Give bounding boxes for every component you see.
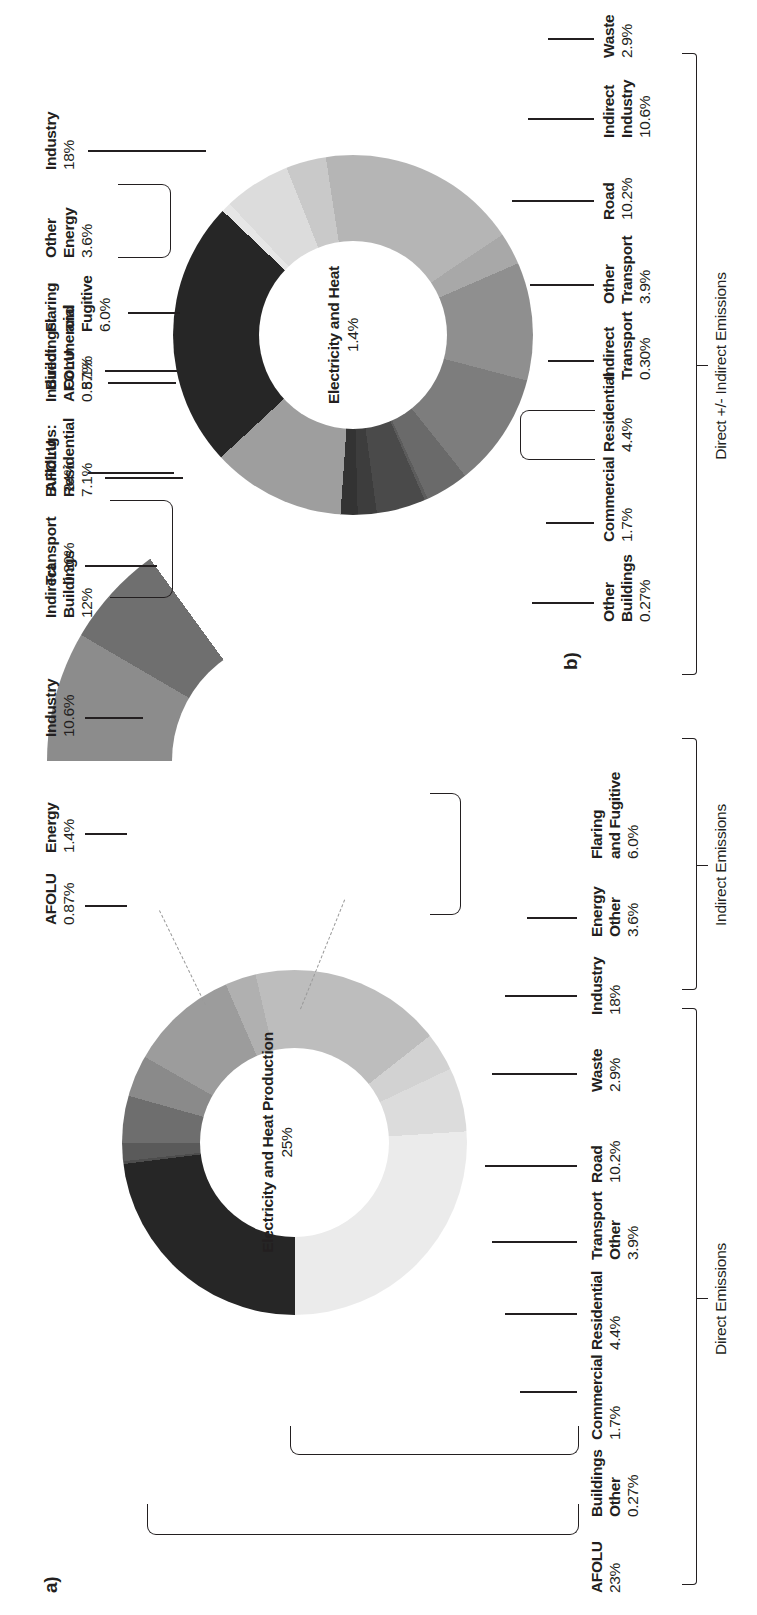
axis-tick-indirect (696, 865, 708, 866)
label-b-waste: Waste 2.9% (600, 0, 636, 58)
label-b-indirect-buildings: Indirect Buildings 12% (42, 508, 96, 618)
leader-direct-transport-other (492, 1241, 577, 1243)
leader-direct-commercial (520, 1391, 577, 1393)
direct-emissions-donut: Electricity and Heat Production 25% (122, 970, 467, 1315)
leader-b-waste (548, 38, 594, 40)
center-title: Electricity and Heat Production (259, 1032, 276, 1253)
center-title: Electricity and Heat (325, 266, 342, 404)
panel-b: b) Electricity and Heat 1.4% Indirect Bu… (0, 0, 757, 710)
leader-b-indirect-industry (528, 118, 594, 120)
leader-indirect-industry (85, 717, 143, 719)
axis-bracket-direct (682, 1008, 697, 1585)
label-direct-flaring-fugitive: Flaring and Fugitive 6.0% (588, 719, 642, 859)
label-indirect-energy: Energy 1.4% (42, 757, 78, 853)
axis-bracket-indirect (682, 738, 697, 990)
leader-b-afolu (88, 472, 174, 474)
leader-direct-residential (505, 1313, 577, 1315)
leader-direct-waste (492, 1073, 577, 1075)
axis-tick-direct (696, 1298, 708, 1299)
center-pct: 25% (278, 1010, 296, 1275)
label-direct-road: Road 10.2% (588, 1087, 624, 1183)
label-b-other-energy: Other Energy 3.6% (42, 162, 96, 258)
axis-tick-combined (696, 365, 708, 366)
leader-b-commercial (546, 522, 594, 524)
label-b-afolu: AFOLU 24% (42, 396, 78, 492)
combined-emissions-donut: Electricity and Heat 1.4% (173, 155, 533, 515)
panel-a-letter: a) (40, 1577, 62, 1594)
panel-b-letter: b) (560, 652, 582, 670)
leader-direct-road (485, 1165, 577, 1167)
leader-direct-energy-other (527, 917, 577, 919)
leader-direct-buildings-other (290, 1426, 579, 1455)
leader-b-flaring-fugitive (128, 312, 180, 314)
figure-canvas: a) Electricity and Heat Production 25% A… (0, 0, 757, 1615)
axis-bracket-combined (682, 53, 697, 675)
leader-direct-afolu (147, 1504, 579, 1535)
leader-b-road (512, 200, 594, 202)
label-b-industry: Industry 18% (42, 74, 78, 170)
leader-indirect-energy (85, 833, 127, 835)
leader-indirect-afolu (85, 905, 127, 907)
leader-direct-flaring-fugitive (430, 793, 461, 915)
direct-donut-center-label: Electricity and Heat Production 25% (259, 1010, 297, 1275)
leader-b-indirect-buildings (110, 500, 173, 598)
center-pct: 1.4% (344, 195, 362, 475)
leader-b-industry (88, 150, 206, 152)
combined-donut-center-label: Electricity and Heat 1.4% (325, 195, 363, 475)
axis-label-combined: Direct +/- Indirect Emissions (712, 196, 730, 536)
leader-b-other-transport (530, 284, 594, 286)
leader-b-indirect-transport (548, 360, 594, 362)
leader-b-indirect-afolu (108, 382, 176, 384)
leader-b-residential (520, 410, 595, 460)
axis-label-indirect: Indirect Emissions (712, 745, 730, 985)
leader-b-other-buildings (532, 602, 594, 604)
leader-b-other-energy (118, 184, 171, 258)
panel-a: a) Electricity and Heat Production 25% A… (0, 710, 757, 1615)
axis-label-direct: Direct Emissions (712, 1179, 730, 1419)
leader-direct-industry (505, 995, 577, 997)
